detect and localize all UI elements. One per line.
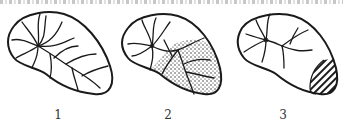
figure-1 xyxy=(2,8,122,108)
cropped-caption-text xyxy=(0,0,343,4)
leaf-hatched-icon xyxy=(228,8,343,108)
figure-3-label: 3 xyxy=(273,108,293,122)
figure-2 xyxy=(114,8,234,108)
figure-1-label: 1 xyxy=(48,108,68,122)
figure-2-label: 2 xyxy=(158,108,178,122)
leaf-outline-icon xyxy=(2,8,122,108)
figure-3 xyxy=(228,8,343,108)
leaf-stippled-icon xyxy=(114,8,234,108)
